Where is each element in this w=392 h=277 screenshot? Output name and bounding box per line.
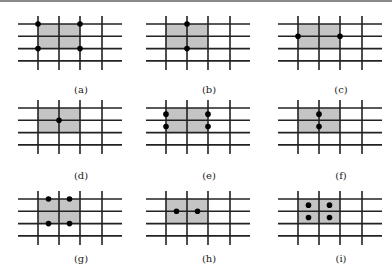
sample-point-dot <box>184 46 190 52</box>
top-rule <box>0 0 392 2</box>
sample-point-dot <box>316 124 322 130</box>
sample-point-dot <box>195 209 201 215</box>
sample-point-dot <box>306 215 312 221</box>
subfigure-panel-b: (b) <box>146 14 272 104</box>
sample-point-dot <box>327 215 333 221</box>
sample-point-dot <box>295 34 301 40</box>
subfigure-panel-d: (d) <box>18 98 144 188</box>
grid-diagram <box>146 98 272 168</box>
subfigure-panel-g: (g) <box>18 189 144 277</box>
sample-point-dot <box>184 21 190 27</box>
sample-point-dot <box>205 111 211 117</box>
sample-point-dot <box>163 124 169 130</box>
sample-point-dot <box>316 111 322 117</box>
sample-point-dot <box>77 46 83 52</box>
grid-diagram <box>278 14 392 84</box>
subfigure-panel-i: (i) <box>278 189 392 277</box>
subfigure-label: (c) <box>278 84 392 95</box>
grid-diagram <box>146 189 272 259</box>
sample-point-dot <box>337 34 343 40</box>
sample-point-dot <box>67 221 73 227</box>
sample-point-dot <box>205 124 211 130</box>
grid-diagram <box>18 98 144 168</box>
subfigure-panel-c: (c) <box>278 14 392 104</box>
subfigure-label: (h) <box>146 253 272 264</box>
sample-point-dot <box>327 202 333 208</box>
sample-point-dot <box>67 196 73 202</box>
sample-point-dot <box>56 118 62 124</box>
subfigure-label: (i) <box>278 253 392 264</box>
subfigure-label: (e) <box>146 170 272 181</box>
grid-diagram <box>278 98 392 168</box>
sample-point-dot <box>77 21 83 27</box>
sample-point-dot <box>306 202 312 208</box>
subfigure-label: (b) <box>146 84 272 95</box>
sample-point-dot <box>174 209 180 215</box>
subfigure-label: (f) <box>278 170 392 181</box>
subfigure-panel-h: (h) <box>146 189 272 277</box>
subfigure-label: (a) <box>18 84 144 95</box>
subfigure-label: (d) <box>18 170 144 181</box>
sample-point-dot <box>35 46 41 52</box>
sample-point-dot <box>35 21 41 27</box>
sample-point-dot <box>46 196 52 202</box>
subfigure-panel-e: (e) <box>146 98 272 188</box>
grid-diagram <box>18 14 144 84</box>
grid-diagram <box>18 189 144 259</box>
sample-point-dot <box>163 111 169 117</box>
subfigure-panel-a: (a) <box>18 14 144 104</box>
sample-point-dot <box>46 221 52 227</box>
grid-diagram <box>146 14 272 84</box>
subfigure-panel-f: (f) <box>278 98 392 188</box>
grid-diagram <box>278 189 392 259</box>
subfigure-label: (g) <box>18 253 144 264</box>
